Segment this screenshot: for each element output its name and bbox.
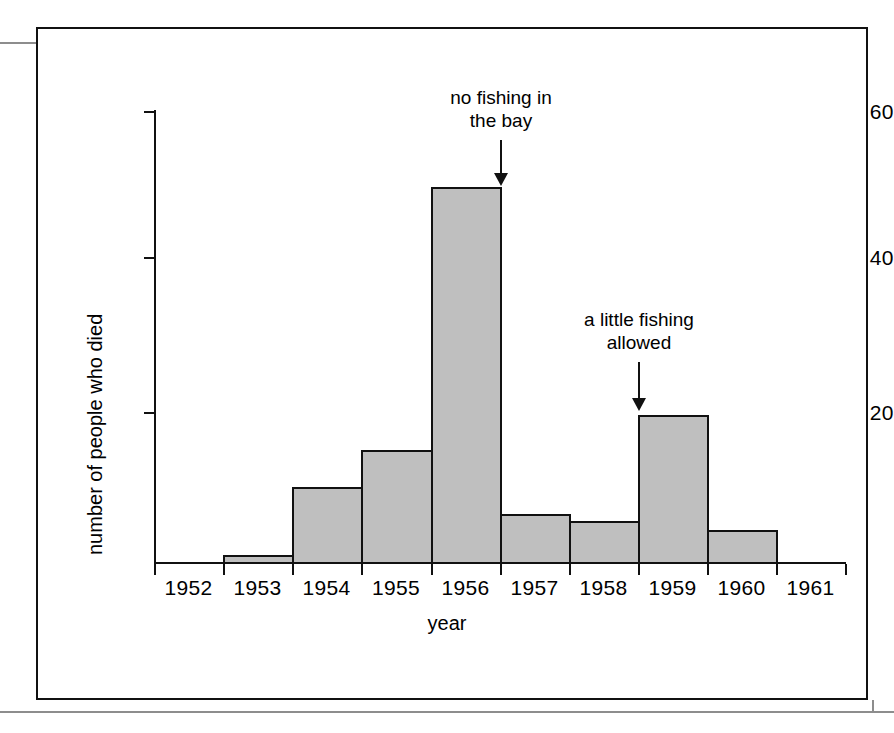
x-tick-boundary-4 — [431, 564, 433, 575]
x-tick-boundary-9 — [776, 564, 778, 575]
bar-1960 — [707, 530, 778, 564]
annotation-arrow-shaft-no-fishing — [500, 140, 502, 177]
x-tick-label-1960: 1960 — [707, 576, 776, 600]
bar-1957 — [500, 514, 571, 564]
x-tick-boundary-6 — [569, 564, 571, 575]
annotation-arrow-head-no-fishing — [494, 173, 508, 186]
annotation-arrow-head-little-fishing — [632, 398, 646, 411]
y-tick-40 — [144, 257, 155, 259]
x-tick-label-1952: 1952 — [154, 576, 223, 600]
y-axis-line — [154, 110, 156, 565]
chart-plot-area: 60 40 20 1952 1953 1954 1955 1956 1957 1… — [0, 0, 894, 733]
y-tick-label-40: 40 — [758, 246, 894, 270]
x-tick-label-1953: 1953 — [223, 576, 292, 600]
x-tick-label-1961: 1961 — [776, 576, 845, 600]
x-tick-label-1956: 1956 — [431, 576, 500, 600]
bar-1959 — [638, 415, 709, 564]
x-tick-boundary-8 — [707, 564, 709, 575]
bar-1954 — [292, 487, 363, 564]
x-tick-label-1958: 1958 — [569, 576, 638, 600]
annotation-no-fishing: no fishing in the bay — [401, 86, 601, 132]
bar-1955 — [361, 450, 433, 564]
x-tick-boundary-5 — [500, 564, 502, 575]
y-tick-20 — [144, 412, 155, 414]
y-axis-title: number of people who died — [84, 314, 107, 555]
x-tick-label-1957: 1957 — [500, 576, 569, 600]
x-tick-boundary-3 — [361, 564, 363, 575]
bar-1958 — [569, 521, 640, 564]
annotation-arrow-shaft-little-fishing — [638, 362, 640, 401]
y-tick-label-60: 60 — [758, 100, 894, 124]
bar-1953 — [223, 555, 294, 564]
x-tick-boundary-2 — [292, 564, 294, 575]
x-tick-label-1955: 1955 — [361, 576, 431, 600]
x-tick-boundary-10 — [845, 564, 847, 575]
x-tick-boundary-1 — [223, 564, 225, 575]
x-tick-boundary-0 — [154, 564, 156, 575]
y-tick-label-20: 20 — [758, 401, 894, 425]
annotation-little-fishing: a little fishing allowed — [539, 308, 739, 354]
x-axis-title: year — [0, 612, 894, 635]
y-tick-60 — [144, 111, 155, 113]
x-tick-label-1959: 1959 — [638, 576, 707, 600]
x-tick-label-1954: 1954 — [292, 576, 361, 600]
x-tick-boundary-7 — [638, 564, 640, 575]
bar-1956 — [431, 187, 502, 564]
